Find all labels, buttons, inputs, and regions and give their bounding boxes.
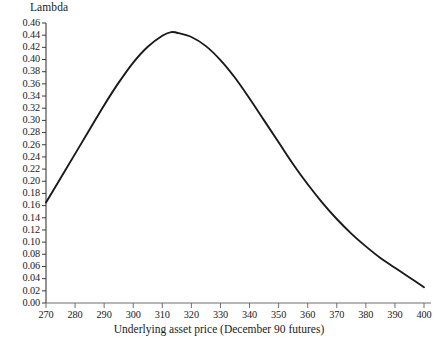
plot-area <box>0 0 438 342</box>
axes <box>46 23 431 303</box>
x-axis-title: Underlying asset price (December 90 futu… <box>0 323 438 336</box>
y-axis-ticks <box>42 23 46 303</box>
x-axis-ticks <box>46 303 424 308</box>
chart-container: Lambda 0.000.020.040.060.080.100.120.140… <box>0 0 438 342</box>
lambda-curve <box>46 32 424 287</box>
